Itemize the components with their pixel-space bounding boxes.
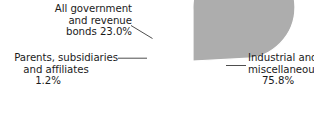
pie-label-industrial-and-miscellaneous: Industrial and miscellaneous 75.8% xyxy=(248,52,314,87)
pie-label-line: miscellaneous xyxy=(248,64,314,76)
pie-label-line: Industrial and xyxy=(248,52,314,64)
pie-label-parents-subsidiaries-and-affiliates: Parents, subsidiaries and affiliates 1.2… xyxy=(2,52,118,87)
pie-label-line: Parents, subsidiaries xyxy=(2,52,118,64)
pie-label-all-government-and-revenue-bonds: All government and revenue bonds 23.0% xyxy=(35,3,132,38)
pie-label-line: All government xyxy=(35,3,132,15)
pie-label-value: 75.8% xyxy=(248,75,314,87)
leader-line-government xyxy=(131,26,153,39)
pie-label-value: bonds 23.0% xyxy=(35,26,132,38)
pie-chart-figure: All government and revenue bonds 23.0% P… xyxy=(0,0,314,119)
pie-label-line: and revenue xyxy=(35,15,132,27)
pie-label-line: and affiliates xyxy=(2,64,118,76)
pie-label-value: 1.2% xyxy=(2,75,118,87)
